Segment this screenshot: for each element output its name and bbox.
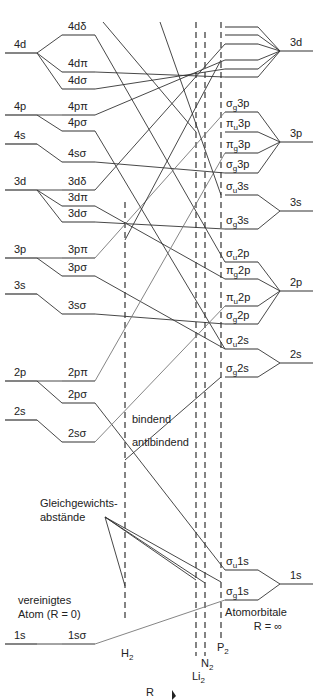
molecule-labels: H2Li2N2P2 — [121, 641, 229, 685]
united-mo-label: 3pσ — [68, 261, 87, 273]
merge-line — [258, 195, 280, 211]
united-mo-label: 3pπ — [68, 243, 88, 255]
united-atom-header-line2: Atom (R = 0) — [18, 608, 81, 620]
united-mo-label: 4sσ — [68, 147, 87, 159]
united-mo-label: 4pσ — [68, 116, 87, 128]
separated-mo-label: σu2s — [226, 334, 249, 349]
united-atom-label: 4p — [14, 100, 26, 112]
united-mo-label: 4dπ — [68, 57, 88, 69]
separated-mo-label: σu1s — [226, 555, 249, 570]
merge-line — [258, 262, 280, 291]
equilibrium-label-line2: abstände — [40, 511, 85, 523]
split-line — [37, 115, 62, 131]
bonding-label: bindend — [132, 413, 171, 425]
united-mo-label: 2sσ — [68, 427, 87, 439]
separated-mo-label: σg2s — [226, 362, 249, 377]
separated-atom-label: 3d — [290, 36, 302, 48]
molecule-label-p2: P2 — [217, 641, 229, 656]
antibonding-label: antibindend — [132, 436, 189, 448]
correlation-line — [160, 22, 221, 195]
united-mo-label: 3sσ — [68, 299, 87, 311]
merge-line — [258, 279, 280, 291]
united-mo-label: 4dδ — [68, 20, 86, 32]
molecule-label-h2: H2 — [121, 647, 134, 662]
separated-atom-label: 2s — [290, 348, 302, 360]
separated-atom-label: 1s — [290, 569, 302, 581]
united-mo-label: 3dπ — [68, 191, 88, 203]
separated-mo-label: σg1s — [226, 585, 249, 600]
separated-atoms-header-line1: Atomorbitale — [225, 606, 287, 618]
separated-mo-label: πg2p — [226, 264, 250, 279]
merge-line — [258, 51, 280, 69]
merge-line — [258, 112, 280, 142]
separated-mo-label: σg3p — [226, 158, 250, 173]
correlation-line — [125, 60, 221, 240]
equilibrium-pointers — [105, 517, 221, 586]
split-line — [37, 258, 62, 276]
correlation-diagram: 4d4p4s3d3p3s2p2s1s4dδ4dπ4dσ4pπ4pσ4sσ3dδ3… — [0, 0, 321, 700]
merge-line — [258, 35, 280, 51]
united-atom-levels: 4d4p4s3d3p3s2p2s1s4dδ4dπ4dσ4pπ4pσ4sσ3dδ3… — [5, 20, 95, 644]
separated-mo-label: πg3p — [226, 138, 250, 153]
merge-line — [258, 570, 280, 584]
split-line — [37, 53, 62, 89]
split-line — [37, 35, 62, 53]
united-mo-label: 1sσ — [68, 629, 87, 641]
separated-mo-label: σg3s — [226, 214, 249, 229]
united-atom-label: 3s — [14, 279, 26, 291]
united-mo-label: 2pπ — [68, 366, 88, 378]
split-line — [37, 381, 62, 403]
molecule-label-n2: N2 — [201, 657, 214, 672]
merge-line — [258, 291, 280, 306]
merge-line — [258, 363, 280, 377]
separated-mo-label: σg3p — [226, 97, 250, 112]
split-line — [37, 53, 62, 72]
united-atom-label: 1s — [14, 629, 26, 641]
united-atom-label: 2s — [14, 405, 26, 417]
united-atom-label: 3d — [14, 175, 26, 187]
united-mo-label: 4pπ — [68, 100, 88, 112]
split-line — [37, 420, 62, 442]
r-axis-arrow — [172, 690, 176, 700]
correlation-line — [103, 22, 196, 132]
separated-atoms-header-line2: R = ∞ — [254, 620, 282, 632]
merge-line — [258, 51, 280, 77]
separated-atom-label: 2p — [290, 276, 302, 288]
split-line — [37, 190, 62, 206]
merge-line — [258, 142, 280, 173]
united-mo-label: 2pσ — [68, 388, 87, 400]
separated-mo-label: σu3s — [226, 180, 249, 195]
united-atom-label: 2p — [14, 366, 26, 378]
separated-mo-label: σu2p — [226, 247, 250, 262]
molecule-label-li2: Li2 — [192, 670, 206, 685]
equilibrium-label-line1: Gleichgewichts- — [40, 497, 118, 509]
split-line — [37, 144, 62, 162]
separated-mo-label: πu2p — [226, 291, 250, 306]
merge-line — [258, 142, 280, 153]
separated-atom-levels: 3d3p3s2p2s1sσg3pπu3pπg3pσg3pσu3sσg3sσu2p… — [225, 27, 313, 600]
united-atom-label: 4d — [14, 38, 26, 50]
united-mo-label: 3dδ — [68, 175, 86, 187]
separated-mo-label: πu3p — [226, 117, 250, 132]
merge-line — [258, 349, 280, 363]
united-mo-label: 3dσ — [68, 207, 87, 219]
axis-label-r: R — [146, 686, 154, 698]
united-atom-label: 3p — [14, 243, 26, 255]
united-atom-label: 4s — [14, 129, 26, 141]
united-mo-label: 4dσ — [68, 74, 87, 86]
merge-line — [258, 584, 280, 600]
merge-line — [258, 291, 280, 324]
separated-atom-label: 3p — [290, 127, 302, 139]
split-line — [37, 294, 62, 314]
separated-atom-label: 3s — [290, 196, 302, 208]
separated-mo-label: σg2p — [226, 309, 250, 324]
split-line — [37, 190, 62, 222]
merge-line — [258, 211, 280, 229]
united-atom-header-line1: vereinigtes — [18, 594, 72, 606]
